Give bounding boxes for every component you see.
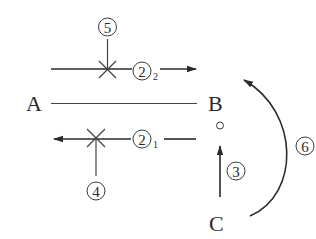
svg-text:6: 6 [301,139,309,155]
arrow-6-curve [244,80,287,216]
node-B-label: B [208,91,223,116]
svg-text:2: 2 [138,132,146,148]
marker-5: 5 [99,18,117,36]
arrow-2-2-group: 5 2 2 [51,18,196,82]
svg-text:5: 5 [104,20,112,36]
arrow-2-1-group: 4 2 1 [54,129,196,200]
svg-text:1: 1 [153,139,158,150]
svg-text:2: 2 [138,64,146,80]
marker-2-2: 2 2 [133,62,158,82]
diagram-canvas: 5 2 2 A B 4 2 1 3 C [0,0,316,239]
marker-4: 4 [87,182,105,200]
node-A-label: A [26,91,42,116]
node-C-label: C [209,211,224,236]
marker-2-1: 2 1 [133,130,158,150]
node-B-point-icon [217,122,224,129]
svg-text:2: 2 [153,71,158,82]
svg-text:4: 4 [92,184,100,200]
marker-3: 3 [227,162,245,180]
marker-6: 6 [296,137,314,155]
svg-text:3: 3 [232,164,240,180]
